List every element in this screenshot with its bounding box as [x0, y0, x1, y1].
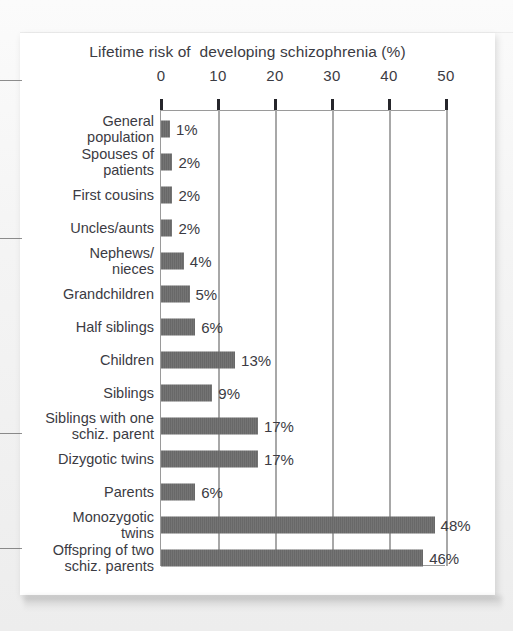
bar-value-label: 2%: [178, 153, 200, 170]
bar-row: Uncles/aunts2%: [20, 211, 495, 244]
chart-title: Lifetime risk of developing schizophreni…: [20, 43, 475, 61]
bar-value-label: 6%: [201, 318, 223, 335]
bar-row: Offspring of two schiz. parents46%: [20, 541, 495, 574]
category-label: Uncles/aunts: [0, 220, 154, 236]
margin-mark: [0, 238, 22, 239]
bar[interactable]: [161, 285, 190, 302]
bar-chart: Lifetime risk of developing schizophreni…: [20, 33, 495, 595]
bar[interactable]: [161, 186, 172, 203]
bar-row: Children13%: [20, 343, 495, 376]
bar-value-label: 4%: [190, 252, 212, 269]
bar-row: Parents6%: [20, 475, 495, 508]
bar[interactable]: [161, 483, 195, 500]
bar[interactable]: [161, 252, 184, 269]
bar-value-label: 2%: [178, 186, 200, 203]
x-tick-label: 10: [209, 67, 226, 84]
page-bottom-shadow: [24, 596, 502, 610]
bar[interactable]: [161, 450, 258, 467]
bar-row: Half siblings6%: [20, 310, 495, 343]
bar-value-label: 48%: [441, 516, 471, 533]
bar-row: Dizygotic twins17%: [20, 442, 495, 475]
bar[interactable]: [161, 153, 172, 170]
category-label: First cousins: [0, 187, 154, 203]
category-label: Parents: [0, 484, 154, 500]
category-label: Grandchildren: [0, 286, 154, 302]
bar-row: Monozygotic twins48%: [20, 508, 495, 541]
category-label: Half siblings: [0, 319, 154, 335]
bar[interactable]: [161, 219, 172, 236]
bar-row: Grandchildren5%: [20, 277, 495, 310]
bar[interactable]: [161, 549, 423, 566]
x-tick-mark: [331, 99, 334, 110]
x-tick-mark: [274, 99, 277, 110]
margin-mark: [0, 80, 22, 81]
x-tick-mark: [445, 99, 448, 110]
bar-value-label: 1%: [176, 120, 198, 137]
x-axis-tick-labels: 01020304050: [20, 67, 495, 87]
category-label: Monozygotic twins: [0, 509, 154, 541]
category-label: Dizygotic twins: [0, 451, 154, 467]
bar-value-label: 13%: [241, 351, 271, 368]
bar-row: General population1%: [20, 112, 495, 145]
x-tick-label: 40: [380, 67, 397, 84]
bar-row: Spouses of patients2%: [20, 145, 495, 178]
bar[interactable]: [161, 384, 212, 401]
x-tick-mark: [388, 99, 391, 110]
category-label: Siblings: [0, 385, 154, 401]
bar-row: Siblings9%: [20, 376, 495, 409]
bar-row: Siblings with one schiz. parent17%: [20, 409, 495, 442]
bar-value-label: 17%: [264, 450, 294, 467]
category-label: General population: [0, 113, 154, 145]
category-label: Children: [0, 352, 154, 368]
x-tick-mark: [160, 99, 163, 110]
bar-row: First cousins2%: [20, 178, 495, 211]
x-tick-label: 0: [157, 67, 166, 84]
bar-value-label: 46%: [429, 549, 459, 566]
bar-value-label: 9%: [218, 384, 240, 401]
x-tick-label: 50: [437, 67, 454, 84]
bar-value-label: 2%: [178, 219, 200, 236]
bar[interactable]: [161, 417, 258, 434]
plot-area: General population1%Spouses of patients2…: [20, 110, 495, 570]
bar[interactable]: [161, 318, 195, 335]
category-label: Nephews/ nieces: [0, 245, 154, 277]
category-label: Spouses of patients: [0, 146, 154, 178]
bar[interactable]: [161, 351, 235, 368]
x-tick-mark: [217, 99, 220, 110]
bar-value-label: 17%: [264, 417, 294, 434]
bar-value-label: 6%: [201, 483, 223, 500]
x-tick-label: 30: [323, 67, 340, 84]
category-label: Siblings with one schiz. parent: [0, 410, 154, 442]
bar-value-label: 5%: [196, 285, 218, 302]
x-tick-label: 20: [266, 67, 283, 84]
bar-row: Nephews/ nieces4%: [20, 244, 495, 277]
category-label: Offspring of two schiz. parents: [0, 542, 154, 574]
bar[interactable]: [161, 516, 435, 533]
bar[interactable]: [161, 120, 170, 137]
